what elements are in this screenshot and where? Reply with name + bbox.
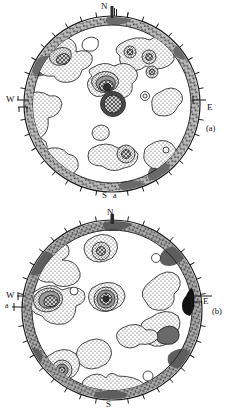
panel-a-label-north: N <box>101 2 108 11</box>
panel-b-label-south: S <box>106 400 111 409</box>
panel-a-label-south: S <box>102 191 107 200</box>
panel-a-label-east: E <box>207 103 213 112</box>
domain-b-s-dot <box>143 371 153 381</box>
panel-b-label-north: N <box>107 208 114 217</box>
domain-a-s-oval <box>92 125 109 140</box>
panel-b-label-east: E <box>203 297 209 306</box>
panel-b-panel-label: (b) <box>212 307 222 316</box>
panel-a-label-extra: a <box>113 192 117 200</box>
figure-stereonet-pair <box>0 0 240 416</box>
stereonet-svg <box>0 0 240 416</box>
panel-b-label-extra: a <box>5 302 9 310</box>
domain-b-ne-dot <box>152 254 161 263</box>
panel-a-label-west: W <box>6 95 15 104</box>
panel-b-label-west: W <box>6 291 15 300</box>
panel-a-panel-label: (a) <box>206 124 215 133</box>
